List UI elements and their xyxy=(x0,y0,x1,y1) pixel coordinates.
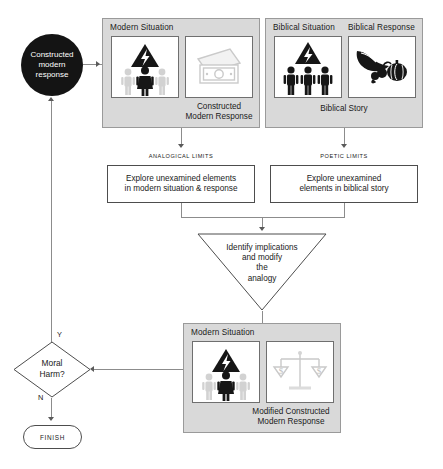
triangle-line2: and modify xyxy=(197,253,327,263)
poetic-limits-text-line2: elements in biblical story xyxy=(299,184,388,195)
start-node-line3: response xyxy=(30,70,73,80)
finish-node[interactable]: FINISH xyxy=(23,425,82,449)
arrow-biblical-panel-to-poetic xyxy=(341,144,347,148)
triangle-line3: the xyxy=(197,263,327,273)
start-node-constructed-modern-response[interactable]: Constructed modern response xyxy=(21,34,83,96)
arrow-moral-harm-to-finish xyxy=(48,417,54,421)
arrow-start-to-modern-panel xyxy=(96,61,100,67)
modified-panel-caption-line1: Modified Constructed xyxy=(244,407,338,417)
hazard-people-icon xyxy=(112,37,178,97)
modern-situation-icon-box xyxy=(111,36,179,98)
biblical-story-panel: Biblical Situation Biblical Response xyxy=(265,18,423,128)
moral-harm-line1: Moral xyxy=(13,358,91,369)
modified-panel-title: Modern Situation xyxy=(191,328,255,338)
svg-text:$: $ xyxy=(279,366,284,376)
modified-response-icon-box: $ $ xyxy=(266,341,334,403)
modified-modern-situation-panel: Modern Situation xyxy=(183,323,341,433)
arrow-merge-to-triangle xyxy=(259,227,265,231)
moral-harm-line2: Harm? xyxy=(13,369,91,380)
hazard-people-icon xyxy=(193,342,259,402)
moral-harm-decision[interactable]: Moral Harm? xyxy=(13,341,91,398)
no-branch-label: N xyxy=(38,393,43,402)
identify-implications-triangle[interactable]: Identify implications and modify the ana… xyxy=(197,233,327,311)
analogical-limits-text-line1: Explore unexamined elements xyxy=(125,174,238,185)
connector-merge-horizontal xyxy=(181,217,345,218)
connector-analogical-down xyxy=(181,203,182,217)
arrow-modern-panel-to-analogical xyxy=(178,144,184,148)
modern-situation-panel-title: Modern Situation xyxy=(110,23,174,33)
modified-situation-icon-box xyxy=(192,341,260,403)
biblical-response-title: Biblical Response xyxy=(348,23,415,33)
analogical-limits-text-line2: in modern situation & response xyxy=(125,184,238,195)
moral-harm-text: Moral Harm? xyxy=(13,358,91,379)
poetic-limits-box[interactable]: Explore unexamined elements in biblical … xyxy=(270,165,418,203)
modern-panel-caption: Constructed Modern Response xyxy=(181,102,257,121)
arrow-moral-harm-to-start xyxy=(48,97,54,101)
poetic-limits-text-line1: Explore unexamined xyxy=(299,174,388,185)
biblical-situation-title: Biblical Situation xyxy=(273,23,335,33)
analogical-limits-box[interactable]: Explore unexamined elements in modern si… xyxy=(107,165,255,203)
triangle-line4: analogy xyxy=(197,274,327,284)
connector-modified-panel-to-moral-harm xyxy=(92,369,183,370)
modern-panel-caption-line2: Modern Response xyxy=(181,112,257,122)
biblical-panel-caption: Biblical Story xyxy=(266,104,422,114)
hazard-three-people-icon xyxy=(275,37,341,97)
modified-panel-caption-line2: Modern Response xyxy=(244,417,338,427)
analogical-limits-label: ANALOGICAL LIMITS xyxy=(106,153,256,159)
modern-situation-panel: Modern Situation xyxy=(102,18,260,128)
modified-panel-caption: Modified Constructed Modern Response xyxy=(244,407,338,426)
start-node-line1: Constructed xyxy=(30,50,73,60)
constructed-modern-response-icon-box xyxy=(185,36,253,98)
finish-label: FINISH xyxy=(40,434,65,441)
flowchart-canvas: Constructed modern response Modern Situa… xyxy=(0,0,443,469)
yes-branch-label: Y xyxy=(57,330,62,339)
modern-panel-caption-line1: Constructed xyxy=(181,102,257,112)
biblical-situation-icon-box xyxy=(274,36,342,98)
triangle-text: Identify implications and modify the ana… xyxy=(197,243,327,284)
banknotes-icon xyxy=(186,37,252,97)
connector-moral-harm-to-start xyxy=(51,100,52,348)
svg-text:$: $ xyxy=(317,366,322,376)
cornucopia-icon xyxy=(349,37,415,97)
triangle-line1: Identify implications xyxy=(197,243,327,253)
poetic-limits-label: POETIC LIMITS xyxy=(269,153,419,159)
scales-dollar-icon: $ $ xyxy=(267,342,333,402)
start-node-line2: modern xyxy=(30,60,73,70)
biblical-response-icon-box xyxy=(348,36,416,98)
connector-poetic-down xyxy=(344,203,345,217)
connector-moral-harm-to-finish xyxy=(51,398,52,419)
